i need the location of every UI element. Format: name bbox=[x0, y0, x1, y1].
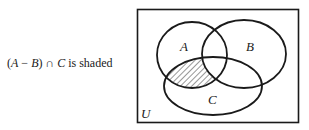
shaded-region bbox=[137, 9, 298, 122]
set-a-label: A bbox=[179, 39, 188, 54]
universe-label: U bbox=[141, 106, 152, 121]
set-c-label: C bbox=[208, 92, 217, 107]
venn-diagram: A B C U bbox=[0, 0, 309, 130]
set-b-label: B bbox=[246, 39, 254, 54]
set-b-ellipse bbox=[202, 20, 286, 88]
